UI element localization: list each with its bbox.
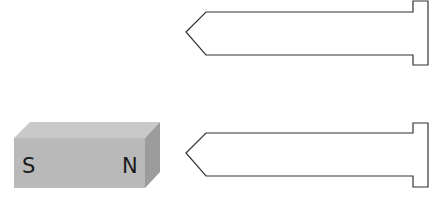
- south-pole-label: S: [22, 154, 35, 178]
- magnet-nails-diagram: S N: [0, 0, 440, 203]
- magnet-top-face: [14, 122, 160, 138]
- north-pole-label: N: [122, 154, 138, 178]
- nail-bottom: [186, 123, 428, 187]
- nail-top: [186, 1, 428, 65]
- bar-magnet: S N: [14, 122, 160, 188]
